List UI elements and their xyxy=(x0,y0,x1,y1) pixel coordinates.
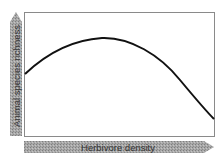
y-axis-arrow: Animal species richness xyxy=(10,12,22,136)
x-axis-arrow: Herbivore density xyxy=(24,141,214,153)
y-axis-label: Animal species richness xyxy=(11,25,22,127)
plot-frame xyxy=(25,13,215,137)
x-axis-label: Herbivore density xyxy=(81,142,155,153)
chart-canvas: Animal species richness Herbivore densit… xyxy=(0,0,223,162)
